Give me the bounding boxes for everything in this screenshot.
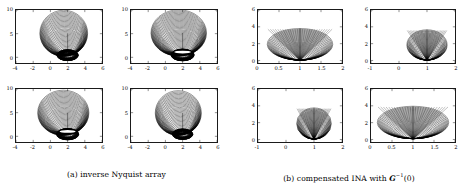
x-tick-label: -4 <box>127 65 132 71</box>
x-tick-label: -1 <box>254 144 259 150</box>
subplot-a-row1-col0: -4-202460510 <box>15 88 103 143</box>
caption-b-text: compensated INA with <box>297 174 387 183</box>
axes-frame <box>257 88 343 143</box>
x-tick-label: 0 <box>397 65 400 71</box>
subplot-a-row1-col1: -4-202460510 <box>130 88 218 143</box>
x-tick-label: -2 <box>30 65 35 71</box>
x-tick-label: 0 <box>164 65 167 71</box>
y-tick-label: 6 <box>365 6 368 12</box>
x-tick-label: -1 <box>367 65 372 71</box>
y-tick-label: 2 <box>365 41 368 47</box>
axes-frame <box>370 9 456 64</box>
x-tick-label: 1 <box>298 65 301 71</box>
x-tick-label: 4 <box>84 144 87 150</box>
x-tick-label: 4 <box>84 65 87 71</box>
y-tick-label: 0 <box>125 134 128 140</box>
x-tick-label: -4 <box>12 65 17 71</box>
y-tick-label: 5 <box>125 110 128 116</box>
subplot-a-row0-col1: -4-202460510 <box>130 9 218 64</box>
x-tick-label: 2 <box>454 144 457 150</box>
x-tick-label: 6 <box>216 65 219 71</box>
axes-frame <box>257 9 343 64</box>
caption-b-arg: (0) <box>404 174 415 183</box>
x-tick-label: 0 <box>284 144 287 150</box>
axes-frame <box>130 88 218 143</box>
subplot-b-row1-col0: -10120246 <box>257 88 343 143</box>
axis-ticks <box>16 10 102 63</box>
y-tick-label: 4 <box>365 102 368 108</box>
y-tick-label: 0 <box>252 137 255 143</box>
x-tick-label: 0.5 <box>387 144 395 150</box>
panel-group-inverse-nyquist-array: -4-202460510 -4-202460510 -4-202460510 -… <box>0 0 233 194</box>
x-tick-label: 2 <box>181 144 184 150</box>
caption-b-exponent: −1 <box>396 172 404 178</box>
x-tick-label: 6 <box>101 65 104 71</box>
x-tick-label: 2 <box>66 65 69 71</box>
x-tick-label: 2 <box>341 65 344 71</box>
axis-ticks <box>258 10 342 63</box>
y-tick-label: 6 <box>252 6 255 12</box>
y-tick-label: 10 <box>6 85 13 91</box>
y-tick-label: 4 <box>252 102 255 108</box>
x-tick-label: -4 <box>127 144 132 150</box>
x-tick-label: 0 <box>164 144 167 150</box>
y-tick-label: 4 <box>252 23 255 29</box>
axis-ticks <box>16 89 102 142</box>
y-tick-label: 2 <box>365 120 368 126</box>
x-tick-label: 2 <box>454 65 457 71</box>
subplot-a-row0-col0: -4-202460510 <box>15 9 103 64</box>
x-tick-label: 1 <box>411 144 414 150</box>
x-tick-label: 4 <box>199 144 202 150</box>
x-tick-label: 2 <box>66 144 69 150</box>
y-tick-label: 4 <box>365 23 368 29</box>
x-tick-label: 0 <box>49 144 52 150</box>
axis-ticks <box>131 89 217 142</box>
x-tick-label: 1.5 <box>317 65 325 71</box>
caption-b-symbol: G <box>389 174 396 183</box>
y-tick-label: 10 <box>121 6 128 12</box>
axis-ticks <box>258 89 342 142</box>
x-tick-label: 6 <box>216 144 219 150</box>
x-tick-label: 1 <box>426 65 429 71</box>
x-tick-label: -2 <box>145 144 150 150</box>
x-tick-label: 0 <box>49 65 52 71</box>
caption-a: (a) inverse Nyquist array <box>0 170 233 180</box>
axes-frame <box>370 88 456 143</box>
y-tick-label: 0 <box>365 137 368 143</box>
y-tick-label: 5 <box>125 31 128 37</box>
x-tick-label: 2 <box>181 65 184 71</box>
y-tick-label: 2 <box>252 41 255 47</box>
x-tick-label: 0 <box>368 144 371 150</box>
y-tick-label: 0 <box>10 134 13 140</box>
x-tick-label: 0 <box>255 65 258 71</box>
y-tick-label: 10 <box>6 6 13 12</box>
axis-ticks <box>371 10 455 63</box>
x-tick-label: 1.5 <box>430 144 438 150</box>
y-tick-label: 0 <box>125 55 128 61</box>
y-tick-label: 0 <box>365 58 368 64</box>
subplot-b-row0-col1: -10120246 <box>370 9 456 64</box>
axes-frame <box>15 9 103 64</box>
axes-frame <box>15 88 103 143</box>
y-tick-label: 2 <box>252 120 255 126</box>
y-tick-label: 6 <box>365 85 368 91</box>
y-tick-label: 6 <box>252 85 255 91</box>
figure-root: -4-202460510 -4-202460510 -4-202460510 -… <box>0 0 465 194</box>
x-tick-label: -2 <box>145 65 150 71</box>
panel-group-compensated-ina: 00.511.520246 -10120246 -10120246 00.511… <box>233 0 465 194</box>
caption-b: (b) compensated INA with G−1(0) <box>233 170 465 184</box>
y-tick-label: 10 <box>121 85 128 91</box>
x-tick-label: 6 <box>101 144 104 150</box>
y-tick-label: 5 <box>10 110 13 116</box>
x-tick-label: -4 <box>12 144 17 150</box>
x-tick-label: 2 <box>341 144 344 150</box>
axis-ticks <box>131 10 217 63</box>
y-tick-label: 5 <box>10 31 13 37</box>
subplot-b-row0-col0: 00.511.520246 <box>257 9 343 64</box>
x-tick-label: 4 <box>199 65 202 71</box>
caption-a-text: (a) inverse Nyquist array <box>67 170 166 179</box>
x-tick-label: 0.5 <box>274 65 282 71</box>
x-tick-label: -2 <box>30 144 35 150</box>
y-tick-label: 0 <box>252 58 255 64</box>
caption-b-tag: (b) <box>283 174 294 183</box>
